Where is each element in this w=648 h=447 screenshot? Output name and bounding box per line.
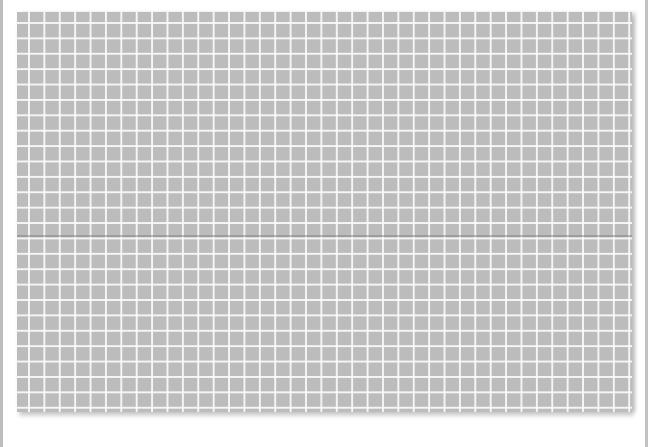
graph-paper-sheet: [17, 12, 632, 412]
fold-crease: [17, 235, 632, 237]
left-edge-strip: [0, 0, 3, 447]
